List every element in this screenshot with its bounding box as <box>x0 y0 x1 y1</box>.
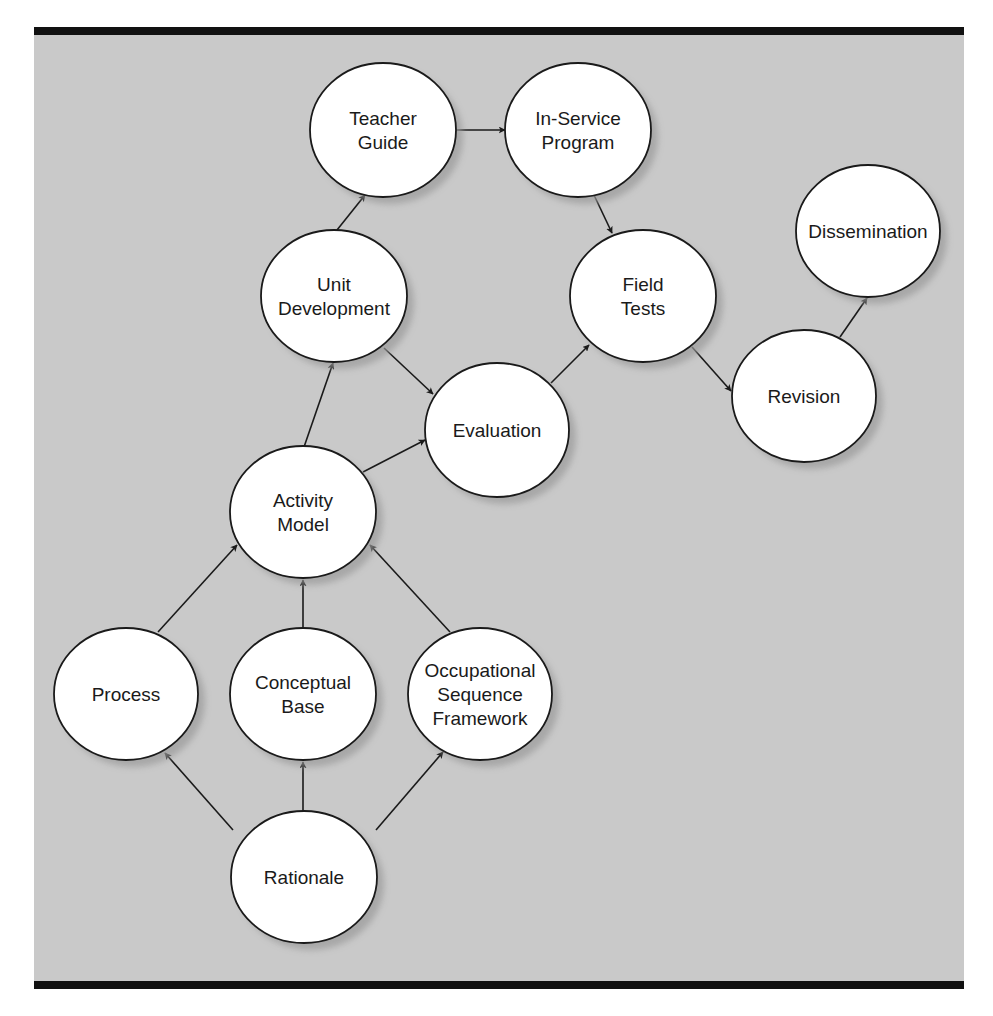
node-label: Tests <box>621 298 665 319</box>
node-label: Unit <box>317 274 352 295</box>
node-label: Field <box>622 274 663 295</box>
node-evaluation: Evaluation <box>425 363 569 497</box>
node-dissemination: Dissemination <box>796 165 940 297</box>
node-label: Model <box>277 514 329 535</box>
node-label: Program <box>542 132 615 153</box>
node-label: Rationale <box>264 867 344 888</box>
arrow-activity-model-to-unit-development <box>304 363 333 447</box>
node-unit-development: UnitDevelopment <box>261 230 407 362</box>
node-label: Evaluation <box>453 420 542 441</box>
node-label: Conceptual <box>255 672 351 693</box>
node-ellipse <box>230 446 376 578</box>
node-label: Framework <box>432 708 528 729</box>
node-ellipse <box>310 63 456 197</box>
arrow-field-tests-to-revision <box>692 347 731 391</box>
flow-diagram: TeacherGuideIn-ServiceProgramDisseminati… <box>0 0 993 1016</box>
node-label: Process <box>92 684 161 705</box>
node-revision: Revision <box>732 330 876 462</box>
node-occupational-sequence-framework: OccupationalSequenceFramework <box>408 628 552 760</box>
node-label: Guide <box>358 132 409 153</box>
arrow-rationale-to-occupational-sequence-framework <box>376 752 443 830</box>
arrow-evaluation-to-field-tests <box>551 345 589 383</box>
arrow-revision-to-dissemination <box>840 298 867 337</box>
node-field-tests: FieldTests <box>570 230 716 362</box>
arrow-activity-model-to-evaluation <box>363 440 425 472</box>
node-ellipse <box>570 230 716 362</box>
node-label: Activity <box>273 490 334 511</box>
node-ellipse <box>230 628 376 760</box>
node-label: Teacher <box>349 108 417 129</box>
node-label: Dissemination <box>808 221 927 242</box>
node-label: Development <box>278 298 391 319</box>
node-rationale: Rationale <box>231 811 377 943</box>
node-label: Sequence <box>437 684 523 705</box>
arrow-unit-development-to-evaluation <box>384 348 433 394</box>
node-label: Revision <box>768 386 841 407</box>
node-teacher-guide: TeacherGuide <box>310 63 456 197</box>
node-label: In-Service <box>535 108 621 129</box>
node-conceptual-base: ConceptualBase <box>230 628 376 760</box>
node-in-service-program: In-ServiceProgram <box>505 63 651 197</box>
node-label: Occupational <box>425 660 536 681</box>
arrow-occupational-sequence-framework-to-activity-model <box>370 545 450 632</box>
node-label: Base <box>281 696 324 717</box>
arrow-rationale-to-process <box>165 753 233 830</box>
node-activity-model: ActivityModel <box>230 446 376 578</box>
node-ellipse <box>505 63 651 197</box>
node-ellipse <box>261 230 407 362</box>
arrow-unit-development-to-teacher-guide <box>337 195 365 230</box>
arrow-process-to-activity-model <box>158 545 237 632</box>
node-process: Process <box>54 628 198 760</box>
